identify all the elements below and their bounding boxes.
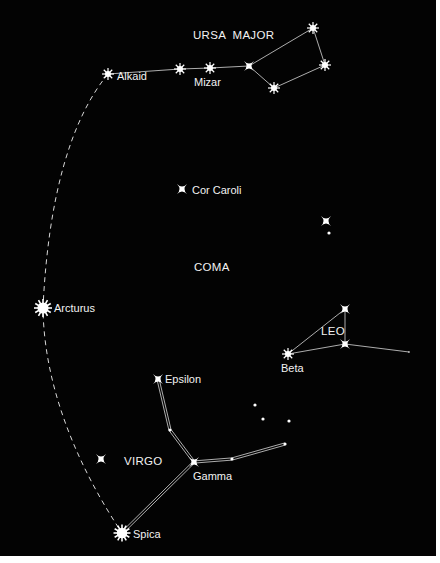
virgo-line	[123, 463, 195, 534]
star-label-gamma: Gamma	[193, 470, 233, 482]
leo-line	[288, 344, 345, 354]
star-virgo-r1	[230, 457, 233, 460]
virgo-line	[169, 431, 193, 463]
constellation-label-coma: COMA	[194, 261, 230, 273]
star-virgo-mid	[168, 428, 171, 431]
star-mizar	[174, 63, 186, 75]
star-dubhe	[307, 22, 319, 34]
constellation-label-ursa-major: URSA MAJOR	[193, 29, 274, 41]
star-virgo-lone	[96, 454, 106, 464]
star-label-beta: Beta	[281, 362, 305, 374]
star-merak	[319, 59, 331, 71]
ursa-major-line	[313, 28, 325, 65]
star-leo-end	[408, 351, 410, 353]
star-faint2	[261, 417, 264, 420]
star-coma-star	[321, 216, 331, 226]
star-label-alkaid: Alkaid	[117, 70, 147, 82]
ursa-major-line	[274, 65, 325, 88]
star-label-cor-caroli: Cor Caroli	[192, 184, 242, 196]
star-label-mizar: Mizar	[194, 76, 221, 88]
star-cor-caroli	[177, 184, 187, 194]
star-label-spica: Spica	[133, 528, 161, 540]
star-chart: Mizar Alkaid Cor Caroli Arcturus Beta Ep…	[0, 0, 436, 556]
star-label-arcturus: Arcturus	[54, 302, 95, 314]
virgo-line	[121, 461, 193, 532]
star-faint1	[253, 403, 256, 406]
virgo-line	[232, 445, 285, 460]
star-phecda	[268, 82, 280, 94]
star-faint3	[287, 419, 290, 422]
star-alioth	[204, 62, 216, 74]
virgo-line	[171, 429, 195, 461]
constellation-label-virgo: VIRGO	[124, 455, 163, 467]
star-virgo-r2	[283, 442, 286, 445]
virgo-line	[159, 379, 171, 430]
star-label-epsilon: Epsilon	[165, 373, 201, 385]
star-chart-svg: Mizar Alkaid Cor Caroli Arcturus Beta Ep…	[0, 0, 436, 556]
star-coma-dot	[327, 231, 330, 234]
star-spica	[114, 525, 131, 542]
star-beta-leo	[282, 348, 294, 360]
star-gamma-vir	[189, 457, 199, 467]
star-alkaid	[102, 68, 114, 80]
virgo-line	[232, 443, 285, 458]
virgo-line	[157, 379, 169, 430]
constellation-label-leo: LEO	[321, 325, 345, 337]
leo-line	[345, 344, 409, 352]
star-arcturus	[34, 299, 52, 317]
